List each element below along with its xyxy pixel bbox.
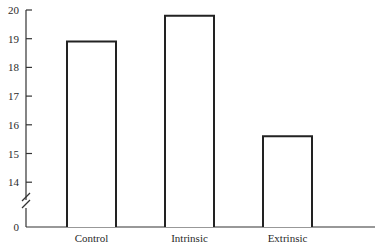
category-label: Intrinsic (171, 232, 208, 244)
y-tick-label: 17 (8, 90, 20, 102)
bars (67, 16, 312, 227)
bar-intrinsic (165, 16, 214, 227)
y-tick-label: 19 (8, 33, 20, 45)
bar-extrinsic (263, 136, 312, 227)
bar-control (67, 42, 116, 227)
y-axis: 201918171615140 (8, 4, 32, 233)
category-label: Control (75, 232, 109, 244)
y-tick-label: 0 (14, 221, 20, 233)
category-label: Extrinsic (268, 232, 308, 244)
bar-chart: 201918171615140 ControlIntrinsicExtrinsi… (0, 0, 383, 248)
y-tick-label: 15 (8, 148, 20, 160)
y-tick-label: 16 (8, 119, 20, 131)
y-tick-label: 20 (8, 4, 20, 16)
y-tick-label: 18 (8, 61, 20, 73)
y-tick-label: 14 (8, 176, 20, 188)
axis-break-mark (22, 200, 30, 208)
category-labels: ControlIntrinsicExtrinsic (75, 232, 308, 244)
